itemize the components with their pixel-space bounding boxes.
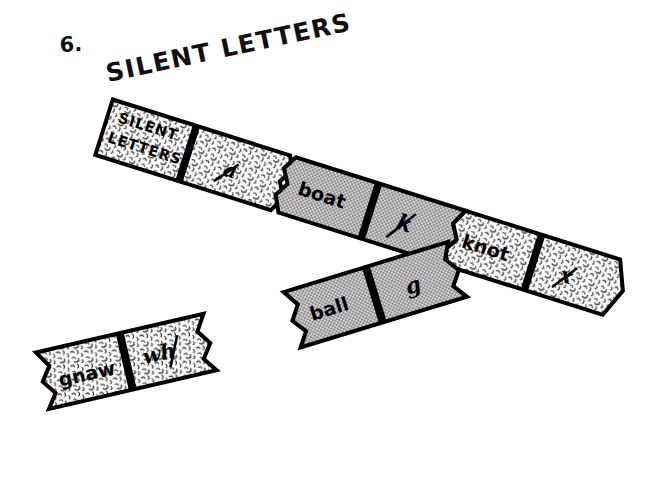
title-number: 6.: [59, 32, 83, 57]
illustration-canvas: 6. SILENT LETTERS SILENT LETTERS a boat …: [0, 0, 672, 492]
silent-letters-figure: 6. SILENT LETTERS SILENT LETTERS a boat …: [0, 0, 672, 492]
